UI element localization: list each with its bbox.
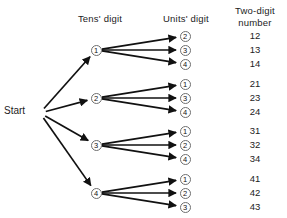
units-digit-node-2-1: 1 — [180, 79, 191, 90]
units-digit-node-3-1: 1 — [180, 126, 191, 137]
tens-digit-node-3: 3 — [91, 140, 102, 151]
two-digit-number-13: 13 — [238, 45, 272, 55]
units-digit-node-2-4: 4 — [180, 107, 191, 118]
units-digit-node-4-1: 1 — [180, 174, 191, 185]
two-digit-number-31: 31 — [238, 126, 272, 136]
two-digit-number-23: 23 — [238, 93, 272, 103]
edge-tens-3-to-units-4 — [102, 146, 176, 158]
units-digit-node-2-3: 3 — [180, 93, 191, 104]
edge-tens-4-to-units-3 — [102, 194, 176, 206]
units-digit-node-1-2: 2 — [180, 31, 191, 42]
edge-tens-4-to-units-1 — [102, 180, 176, 192]
tree-diagram: Tens' digit Units' digit Two-digit numbe… — [0, 0, 287, 218]
edge-tens-3-to-units-1 — [102, 132, 176, 144]
two-digit-number-24: 24 — [238, 107, 272, 117]
edge-tens-2-to-units-4 — [102, 99, 176, 111]
tens-digit-node-4: 4 — [91, 188, 102, 199]
two-digit-number-34: 34 — [238, 154, 272, 164]
two-digit-number-32: 32 — [238, 140, 272, 150]
two-digit-number-21: 21 — [238, 79, 272, 89]
units-digit-node-3-2: 2 — [180, 140, 191, 151]
two-digit-number-43: 43 — [238, 202, 272, 212]
two-digit-number-42: 42 — [238, 188, 272, 198]
units-digit-node-3-4: 4 — [180, 154, 191, 165]
tens-digit-node-1: 1 — [91, 45, 102, 56]
edge-tens-1-to-units-2 — [102, 37, 176, 49]
tens-digit-node-2: 2 — [91, 93, 102, 104]
units-digit-node-1-4: 4 — [180, 59, 191, 70]
edge-group — [43, 37, 176, 205]
edge-tens-1-to-units-4 — [102, 51, 176, 63]
edge-tens-2-to-units-1 — [102, 85, 176, 97]
two-digit-number-14: 14 — [238, 59, 272, 69]
two-digit-number-41: 41 — [238, 174, 272, 184]
edge-start-to-tens-2 — [46, 100, 88, 111]
units-digit-node-1-3: 3 — [180, 45, 191, 56]
units-digit-node-4-3: 3 — [180, 202, 191, 213]
two-digit-number-12: 12 — [238, 31, 272, 41]
units-digit-node-4-2: 2 — [180, 188, 191, 199]
